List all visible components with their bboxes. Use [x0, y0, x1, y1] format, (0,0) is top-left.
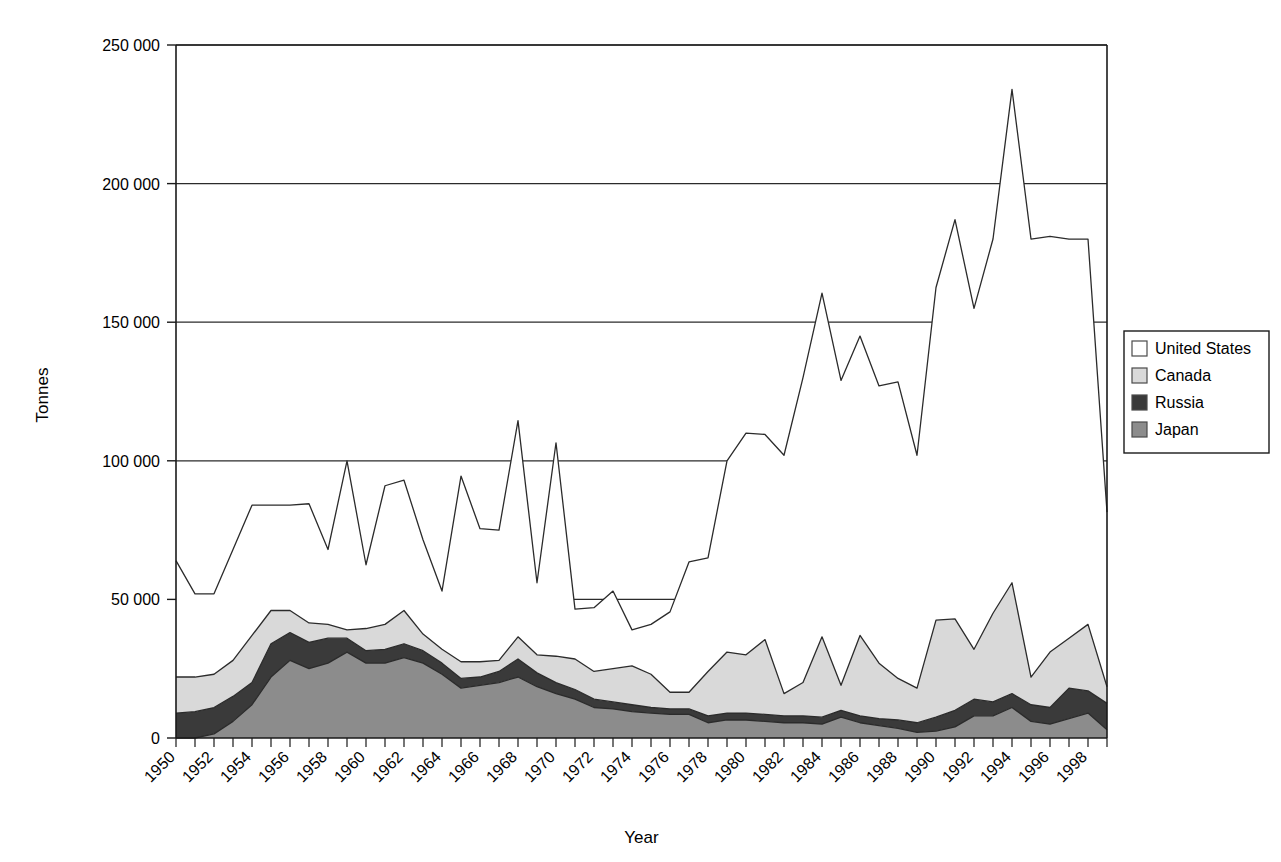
legend-label: United States — [1155, 340, 1251, 357]
x-tick-label: 1960 — [331, 748, 368, 785]
x-tick-label: 1958 — [293, 748, 330, 785]
y-tick-label: 150 000 — [102, 314, 160, 331]
x-tick-label: 1966 — [445, 748, 482, 785]
y-tick-labels-group: 050 000100 000150 000200 000250 000 — [102, 37, 160, 747]
x-tick-label: 1990 — [901, 748, 938, 785]
area-united-states — [176, 89, 1107, 693]
legend-label: Japan — [1155, 421, 1199, 438]
legend-swatch — [1132, 422, 1147, 437]
x-tick-label: 1988 — [863, 748, 900, 785]
legend-label: Canada — [1155, 367, 1211, 384]
x-tick-label: 1974 — [597, 748, 634, 785]
legend-label: Russia — [1155, 394, 1204, 411]
x-tick-label: 1976 — [635, 748, 672, 785]
x-tick-labels-group: 1950195219541956195819601962196419661968… — [141, 748, 1090, 785]
y-tick-label: 200 000 — [102, 176, 160, 193]
x-tick-label: 1994 — [977, 748, 1014, 785]
x-tick-label: 1972 — [559, 748, 596, 785]
x-tick-label: 1968 — [483, 748, 520, 785]
y-axis-label: Tonnes — [33, 368, 52, 423]
x-tick-label: 1978 — [673, 748, 710, 785]
x-tick-label: 1992 — [939, 748, 976, 785]
x-tick-label: 1962 — [369, 748, 406, 785]
legend: United StatesCanadaRussiaJapan — [1124, 331, 1269, 453]
chart-figure: 1950195219541956195819601962196419661968… — [0, 0, 1281, 862]
x-tick-label: 1952 — [179, 748, 216, 785]
x-tick-label: 1996 — [1015, 748, 1052, 785]
y-tick-label: 0 — [151, 730, 160, 747]
x-tick-label: 1986 — [825, 748, 862, 785]
x-tick-label: 1998 — [1053, 748, 1090, 785]
x-tick-label: 1980 — [711, 748, 748, 785]
x-tick-label: 1950 — [141, 748, 178, 785]
y-tick-label: 250 000 — [102, 37, 160, 54]
x-tick-label: 1954 — [217, 748, 254, 785]
legend-swatch — [1132, 368, 1147, 383]
x-tick-label: 1970 — [521, 748, 558, 785]
x-tick-label: 1982 — [749, 748, 786, 785]
y-tick-group — [167, 45, 176, 738]
y-tick-label: 50 000 — [111, 591, 160, 608]
x-axis-label: Year — [624, 828, 659, 847]
x-tick-label: 1956 — [255, 748, 292, 785]
x-tick-group — [176, 738, 1107, 747]
stacked-area-chart: 1950195219541956195819601962196419661968… — [0, 0, 1281, 862]
x-tick-label: 1984 — [787, 748, 824, 785]
y-tick-label: 100 000 — [102, 453, 160, 470]
legend-swatch — [1132, 341, 1147, 356]
legend-swatch — [1132, 395, 1147, 410]
x-tick-label: 1964 — [407, 748, 444, 785]
